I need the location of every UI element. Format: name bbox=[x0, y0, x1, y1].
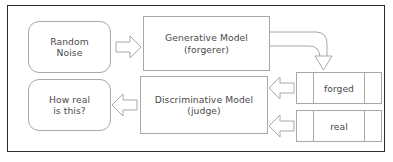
real-cell-left bbox=[297, 111, 313, 141]
node-how-real-line1: How real bbox=[49, 94, 90, 106]
forged-cell-right bbox=[365, 73, 381, 103]
node-random-noise-line1: Random bbox=[50, 36, 89, 48]
node-real-data: real bbox=[296, 110, 382, 142]
forged-cell-left bbox=[297, 73, 313, 103]
real-cell-right bbox=[365, 111, 381, 141]
node-discriminative-model-line1: Discriminative Model bbox=[155, 94, 254, 106]
node-random-noise-line2: Noise bbox=[57, 47, 83, 59]
node-discriminative-model-line2: (judge) bbox=[187, 105, 221, 117]
forged-cell-label: forged bbox=[313, 73, 365, 103]
real-label: real bbox=[330, 121, 347, 132]
node-random-noise: Random Noise bbox=[28, 21, 111, 73]
node-how-real: How real is this? bbox=[28, 79, 111, 131]
node-generative-model-line2: (forgerer) bbox=[184, 44, 229, 56]
node-discriminative-model: Discriminative Model (judge) bbox=[140, 76, 268, 134]
arrow-real-to-discriminator bbox=[268, 113, 296, 139]
node-forged-data: forged bbox=[296, 72, 382, 104]
arrow-noise-to-generator bbox=[115, 34, 143, 60]
arrow-discriminator-to-output bbox=[111, 92, 139, 118]
forged-label: forged bbox=[324, 83, 354, 94]
node-generative-model-line1: Generative Model bbox=[165, 32, 248, 44]
node-generative-model: Generative Model (forgerer) bbox=[143, 16, 270, 71]
real-cell-label: real bbox=[313, 111, 365, 141]
diagram-frame: Random Noise Generative Model (forgerer) bbox=[7, 5, 385, 152]
diagram-canvas: Random Noise Generative Model (forgerer) bbox=[0, 0, 393, 162]
arrow-generator-to-forged bbox=[269, 28, 335, 73]
node-how-real-line2: is this? bbox=[53, 105, 86, 117]
arrow-forged-to-discriminator bbox=[268, 75, 296, 101]
